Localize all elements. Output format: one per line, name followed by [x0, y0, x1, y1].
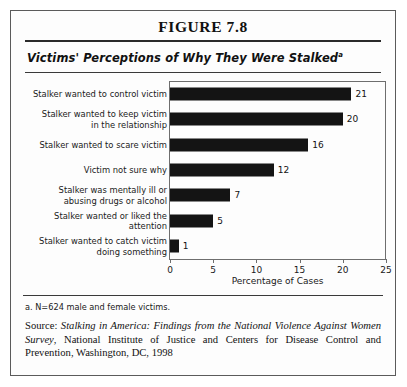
x-axis-tick: [256, 259, 257, 263]
bar: [170, 87, 351, 100]
x-axis-title: Percentage of Cases: [169, 276, 386, 286]
source-rest: , National Institute of Justice and Cent…: [25, 334, 381, 359]
bar-value-label: 12: [278, 165, 289, 175]
category-label: Victim not sure why: [17, 165, 167, 176]
x-axis-tick: [343, 259, 344, 263]
category-label-line: in the relationship: [17, 119, 167, 130]
bar: [170, 138, 308, 151]
x-axis-tick-label: 20: [337, 265, 348, 275]
category-label-line: attention: [17, 221, 167, 232]
bar-value-label: 21: [355, 89, 366, 99]
x-axis-tick-label: 25: [380, 265, 391, 275]
bar-value-label: 7: [234, 190, 240, 200]
category-label-line: Stalker was mentally ill or: [17, 185, 167, 196]
bars-layer: 21201612751: [170, 81, 386, 259]
x-axis-tick-label: 15: [294, 265, 305, 275]
x-axis: 0510152025: [169, 259, 386, 260]
bar: [170, 240, 179, 253]
x-axis-tick-label: 5: [210, 265, 216, 275]
category-label-line: Stalker wanted to scare victim: [17, 139, 167, 150]
category-label: Stalker wanted to catch victimdoing some…: [17, 236, 167, 257]
bar: [170, 214, 213, 227]
x-axis-tick-label: 10: [251, 265, 262, 275]
category-label-line: Stalker wanted or liked the: [17, 210, 167, 221]
figure-subtitle: Victims' Perceptions of Why They Were St…: [27, 51, 343, 65]
x-axis-tick: [300, 259, 301, 263]
bar-value-label: 1: [183, 241, 189, 251]
category-label: Stalker wanted or liked theattention: [17, 210, 167, 231]
bar-chart: Stalker wanted to control victimStalker …: [11, 73, 395, 295]
category-label-line: Stalker wanted to control victim: [17, 88, 167, 99]
category-label: Stalker wanted to control victim: [17, 88, 167, 99]
x-axis-tick: [386, 259, 387, 263]
subtitle-band: Victims' Perceptions of Why They Were St…: [11, 42, 395, 72]
bar: [170, 113, 343, 126]
source-citation: Source: Stalking in America: Findings fr…: [11, 312, 395, 360]
category-label-line: Stalker wanted to keep victim: [17, 109, 167, 120]
category-axis-labels: Stalker wanted to control victimStalker …: [17, 81, 167, 259]
source-label: Source:: [25, 320, 61, 331]
category-label-line: Stalker wanted to catch victim: [17, 236, 167, 247]
category-label: Stalker wanted to scare victim: [17, 139, 167, 150]
bar: [170, 189, 230, 202]
bar-value-label: 20: [347, 114, 358, 124]
x-axis-tick-label: 0: [167, 265, 173, 275]
figure-subtitle-text: Victims' Perceptions of Why They Were St…: [27, 51, 338, 65]
category-label-line: doing something: [17, 246, 167, 257]
bar: [170, 164, 274, 177]
bar-value-label: 16: [312, 140, 323, 150]
figure-title: FIGURE 7.8: [11, 11, 395, 40]
category-label-line: abusing drugs or alcohol: [17, 195, 167, 206]
subtitle-footnote-marker: a: [338, 51, 343, 59]
footnote: a. N=624 male and female victims.: [11, 296, 395, 312]
x-axis-tick: [213, 259, 214, 263]
bar-value-label: 5: [217, 216, 223, 226]
category-label: Stalker was mentally ill orabusing drugs…: [17, 185, 167, 206]
category-label: Stalker wanted to keep victimin the rela…: [17, 109, 167, 130]
figure-card: FIGURE 7.8 Victims' Perceptions of Why T…: [10, 10, 396, 376]
x-axis-tick: [170, 259, 171, 263]
category-label-line: Victim not sure why: [17, 165, 167, 176]
